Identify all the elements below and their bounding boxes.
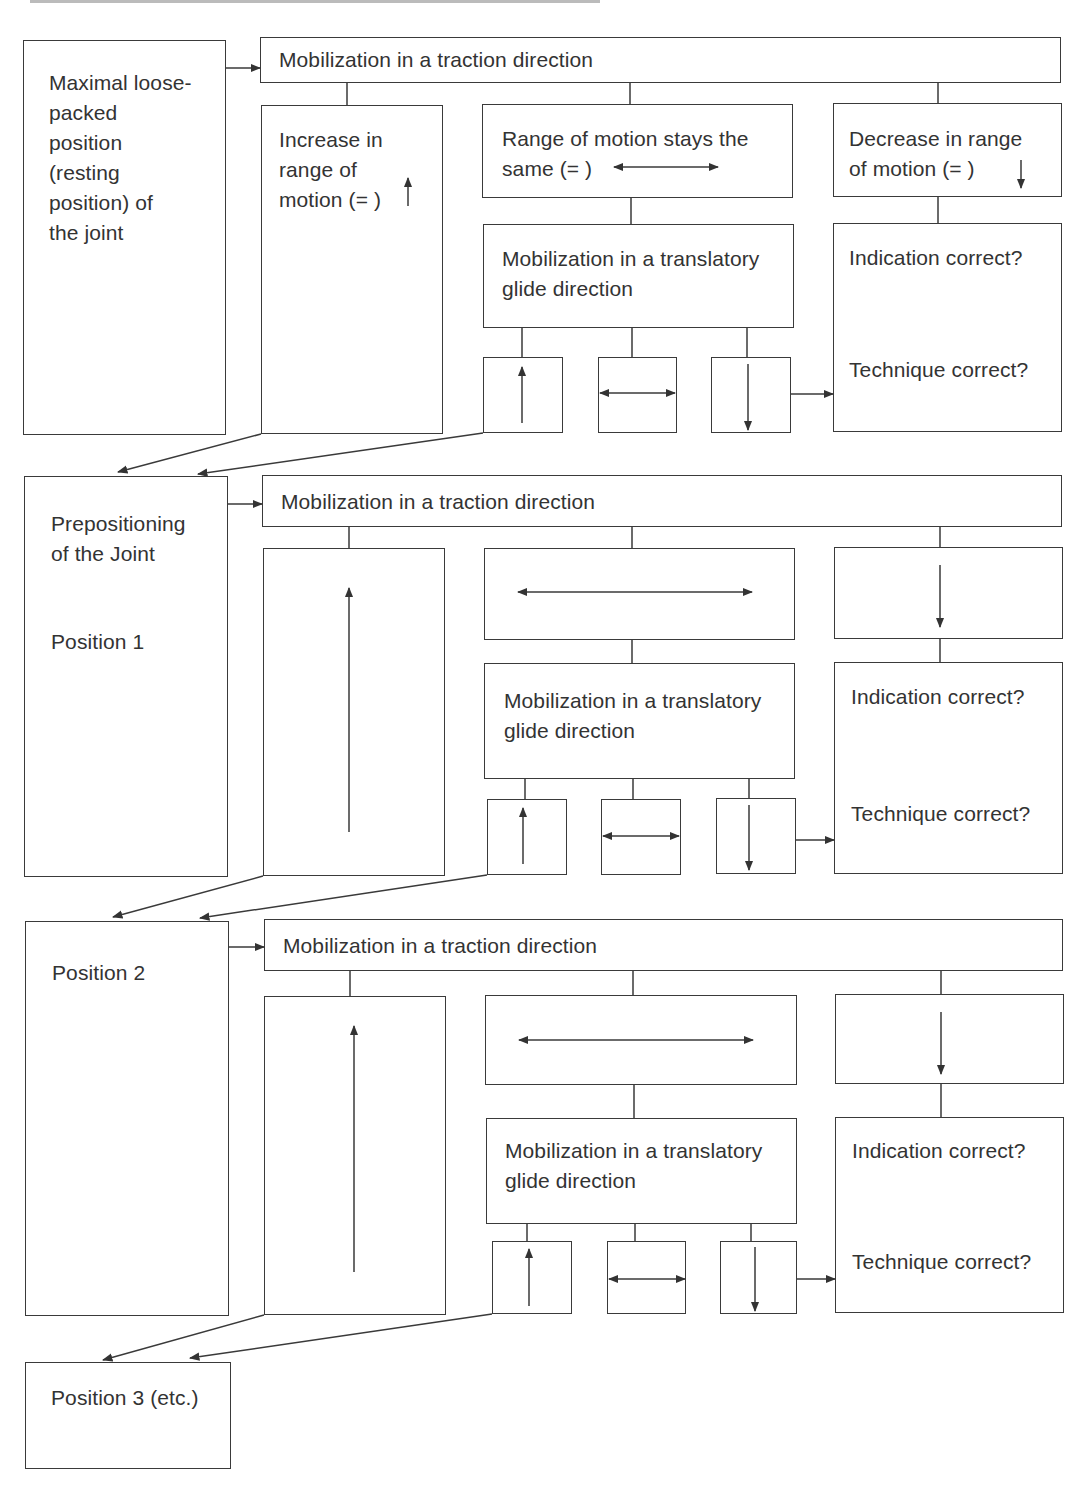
decrease-rom-box: [834, 547, 1063, 639]
indication-label: Indication correct?: [851, 682, 1025, 712]
position-3-box: [25, 1362, 231, 1469]
glide-up-box: [492, 1241, 572, 1314]
indication-label: Indication correct?: [852, 1136, 1026, 1166]
glide-up-box: [487, 799, 567, 875]
decrease-rom-label: Decrease in range of motion (= ): [849, 124, 1059, 184]
traction-label: Mobilization in a traction direction: [281, 487, 595, 517]
glide-same-box: [601, 799, 681, 875]
traction-label: Mobilization in a traction direction: [283, 931, 597, 961]
technique-label: Technique correct?: [851, 799, 1030, 829]
glide-label: Mobilization in a translatory glide dire…: [504, 686, 794, 746]
glide-same-box: [598, 357, 677, 433]
glide-up-box: [483, 357, 563, 433]
technique-label: Technique correct?: [852, 1247, 1031, 1277]
decrease-rom-box: [835, 994, 1064, 1084]
prepositioning-label: Prepositioning of the Joint: [51, 509, 226, 569]
increase-rom-label: Increase in range of motion (= ): [279, 125, 439, 215]
glide-label: Mobilization in a translatory glide dire…: [502, 244, 792, 304]
position-2-label: Position 2: [52, 958, 145, 988]
same-rom-label: Range of motion stays the same (= ): [502, 124, 792, 184]
glide-down-box: [720, 1241, 797, 1314]
traction-label: Mobilization in a traction direction: [279, 45, 593, 75]
glide-same-box: [607, 1241, 686, 1314]
cropped-header-rule: [30, 0, 600, 3]
position-3-label: Position 3 (etc.): [51, 1383, 199, 1413]
glide-down-box: [711, 357, 791, 433]
glide-down-box: [716, 798, 796, 874]
increase-rom-box: [263, 548, 445, 876]
same-rom-box: [484, 548, 795, 640]
same-rom-box: [485, 995, 797, 1085]
resting-position-label: Maximal loose- packed position (resting …: [49, 68, 224, 248]
increase-rom-box: [264, 996, 446, 1315]
position-1-label: Position 1: [51, 627, 144, 657]
indication-label: Indication correct?: [849, 243, 1023, 273]
glide-label: Mobilization in a translatory glide dire…: [505, 1136, 795, 1196]
technique-label: Technique correct?: [849, 355, 1028, 385]
